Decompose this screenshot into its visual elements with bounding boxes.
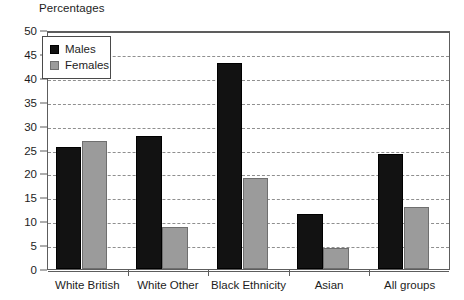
bar-chart: Percentages 50454035302520151050 White B…: [0, 0, 464, 300]
x-axis-separator: [128, 270, 129, 276]
x-axis-label: All groups: [384, 279, 435, 291]
bar-males: [297, 214, 323, 269]
y-tick-label-5: 5: [31, 240, 37, 252]
y-tick-mark-10: [40, 222, 47, 223]
chart-legend: MalesFemales: [42, 36, 111, 79]
y-tick-label-10: 10: [24, 216, 37, 228]
y-tick-mark-15: [40, 198, 47, 199]
bar-group: [136, 32, 188, 269]
y-tick-mark-25: [40, 150, 47, 151]
legend-label: Females: [65, 59, 109, 71]
y-tick-label-35: 35: [24, 97, 37, 109]
legend-swatch-icon: [50, 45, 59, 54]
legend-label: Males: [65, 43, 96, 55]
chart-title: Percentages: [39, 2, 105, 14]
bar-females: [162, 227, 188, 269]
bar-females: [323, 248, 349, 270]
y-tick-mark-30: [40, 126, 47, 127]
x-axis-label: Black Ethnicity: [211, 279, 286, 291]
bar-group: [297, 32, 349, 269]
y-tick-label-0: 0: [31, 264, 37, 276]
bar-males: [56, 147, 82, 269]
y-tick-label-45: 45: [24, 49, 37, 61]
x-axis-separator: [289, 270, 290, 276]
y-tick-label-15: 15: [24, 192, 37, 204]
y-tick-label-50: 50: [24, 25, 37, 37]
x-axis-separator: [208, 270, 209, 276]
bar-females: [243, 178, 269, 269]
y-tick-mark-20: [40, 174, 47, 175]
x-axis-separator: [369, 270, 370, 276]
bar-group: [378, 32, 430, 269]
bar-females: [82, 141, 108, 269]
x-axis-label: White British: [55, 279, 120, 291]
bar-females: [404, 207, 430, 269]
bar-group: [217, 32, 269, 269]
legend-swatch-icon: [50, 61, 59, 70]
y-tick-label-40: 40: [24, 73, 37, 85]
y-tick-label-20: 20: [24, 168, 37, 180]
y-tick-label-25: 25: [24, 145, 37, 157]
bar-males: [136, 136, 162, 269]
x-axis-label: Asian: [315, 279, 344, 291]
y-tick-mark-5: [40, 246, 47, 247]
bar-males: [217, 63, 243, 269]
x-axis: White BritishWhite OtherBlack EthnicityA…: [47, 270, 450, 300]
y-tick-label-30: 30: [24, 121, 37, 133]
y-axis: 50454035302520151050: [0, 31, 47, 270]
y-tick-mark-0: [40, 270, 47, 271]
legend-item-females: Females: [50, 57, 104, 73]
legend-item-males: Males: [50, 41, 104, 57]
y-tick-mark-50: [40, 31, 47, 32]
y-tick-mark-35: [40, 102, 47, 103]
bar-males: [378, 154, 404, 269]
x-axis-label: White Other: [137, 279, 198, 291]
